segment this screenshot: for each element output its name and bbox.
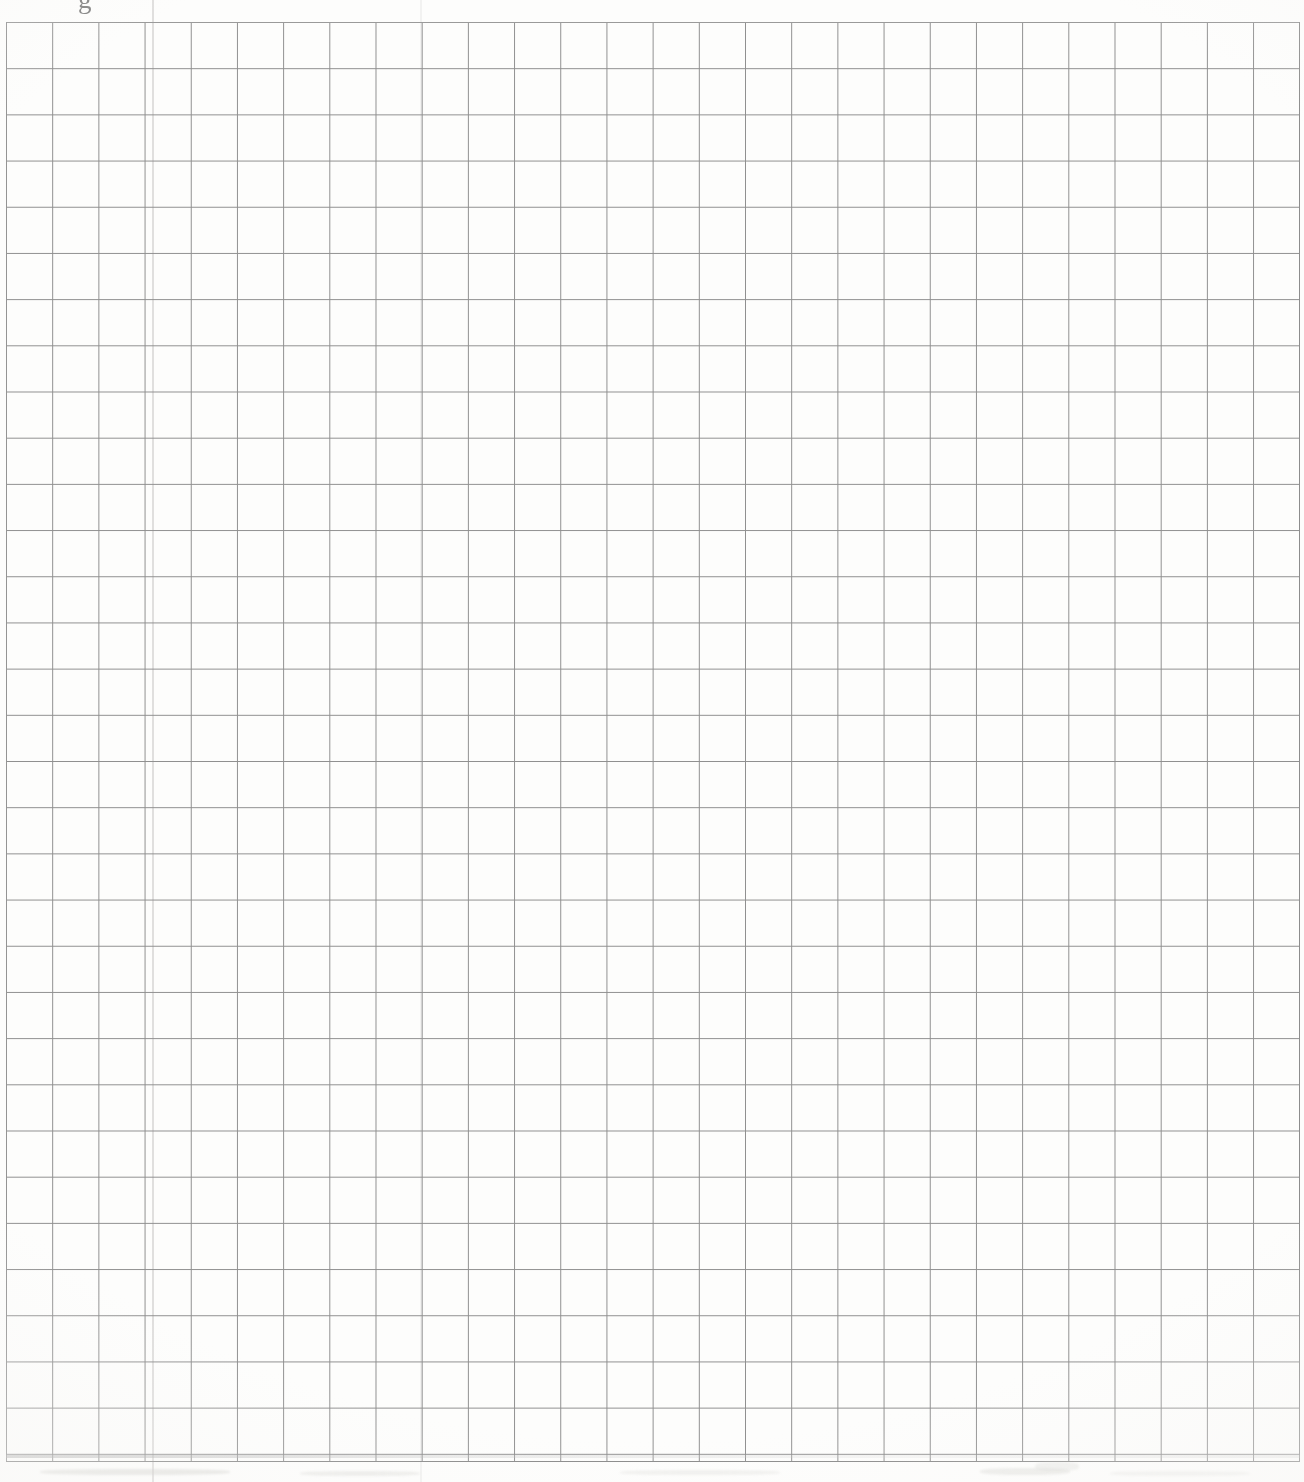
grid-lines (6, 22, 1300, 1462)
graph-paper-grid (6, 22, 1300, 1462)
scanned-page: g Blank quadrille / graph paper sheet (0, 0, 1304, 1482)
header-glyph-fragment: g (78, 0, 93, 15)
grid-border-top (6, 22, 1300, 23)
grid-border-left (6, 22, 7, 1462)
grid-border-right (1299, 22, 1300, 1462)
grid-border-bottom (6, 1461, 1300, 1462)
top-margin (0, 0, 1304, 20)
